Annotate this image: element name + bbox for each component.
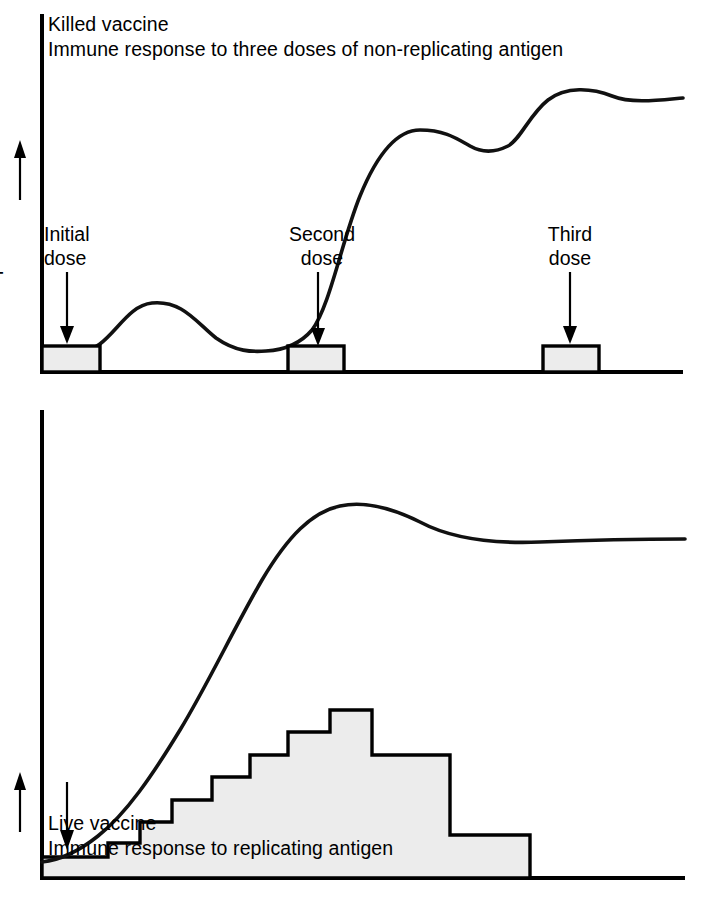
dose-box-third bbox=[543, 346, 599, 372]
live-title-line-2: Immune response to replicating antigen bbox=[48, 836, 393, 861]
killed-title-line-1: Killed vaccine bbox=[48, 12, 563, 37]
immune-response-figure: Killed vaccine Immune response to three … bbox=[0, 0, 704, 909]
killed-response-curve bbox=[42, 90, 683, 352]
live-y-axis-arrow bbox=[14, 772, 26, 832]
panel-killed-vaccine: Killed vaccine Immune response to three … bbox=[0, 0, 704, 400]
label-third-dose-killed: Third dose bbox=[516, 222, 624, 270]
live-panel-title: Live vaccine Immune response to replicat… bbox=[48, 811, 393, 861]
label-initial-dose-killed: Initial dose bbox=[44, 222, 90, 270]
label-second-dose-killed: Second dose bbox=[268, 222, 376, 270]
killed-panel-title: Killed vaccine Immune response to three … bbox=[48, 12, 563, 62]
dose-box-initial bbox=[42, 346, 100, 372]
panel-live-vaccine: Live vaccine Immune response to replicat… bbox=[0, 400, 704, 909]
arrow-third-dose bbox=[563, 272, 577, 344]
live-title-line-1: Live vaccine bbox=[48, 811, 393, 836]
killed-y-axis-label: Immune response bbox=[0, 222, 4, 378]
killed-title-line-2: Immune response to three doses of non-re… bbox=[48, 37, 563, 62]
killed-y-axis-arrow bbox=[14, 140, 26, 200]
dose-box-second bbox=[288, 346, 344, 372]
arrow-initial-dose bbox=[60, 272, 74, 344]
